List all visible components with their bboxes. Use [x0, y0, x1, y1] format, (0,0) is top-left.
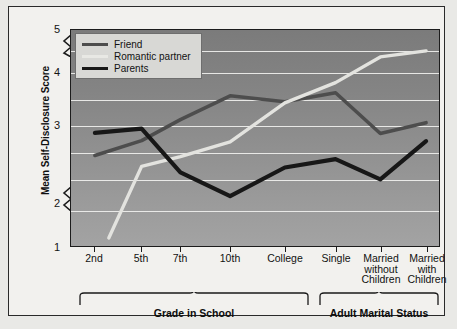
y-tick-5: 5	[54, 23, 60, 35]
y-tick-2: 2	[54, 197, 60, 209]
legend-swatch-parents	[82, 67, 108, 70]
legend-swatch-romantic-partner	[82, 55, 108, 58]
x-axis: 2nd 5th 7th 10th College Single Married …	[70, 247, 440, 293]
line-friend	[95, 93, 426, 156]
legend-label-romantic-partner: Romantic partner	[114, 51, 191, 62]
group-label-grade-in-school: Grade in School	[154, 307, 235, 319]
legend-item-parents: Parents	[82, 62, 191, 74]
y-axis-title: Mean Self-Disclosure Score	[40, 51, 51, 211]
brace-adult-marital-status	[318, 292, 440, 305]
figure-panel: Mean Self-Disclosure Score 5 4 3 2 1	[8, 6, 445, 316]
legend-item-friend: Friend	[82, 38, 191, 50]
x-label-married-with-children: Married with Children	[397, 253, 457, 285]
legend-label-friend: Friend	[114, 39, 142, 50]
y-tick-1: 1	[54, 241, 60, 253]
legend-item-romantic-partner: Romantic partner	[82, 50, 191, 62]
group-label-adult-marital-status: Adult Marital Status	[330, 307, 429, 319]
legend-swatch-friend	[82, 43, 108, 46]
brace-grade-in-school	[78, 292, 310, 305]
y-tick-3: 3	[54, 119, 60, 131]
legend-label-parents: Parents	[114, 63, 148, 74]
y-tick-4: 4	[54, 66, 60, 78]
group-braces: Grade in School Adult Marital Status	[70, 292, 440, 326]
x-label-10th: 10th	[200, 253, 260, 264]
legend: Friend Romantic partner Parents	[75, 33, 202, 79]
